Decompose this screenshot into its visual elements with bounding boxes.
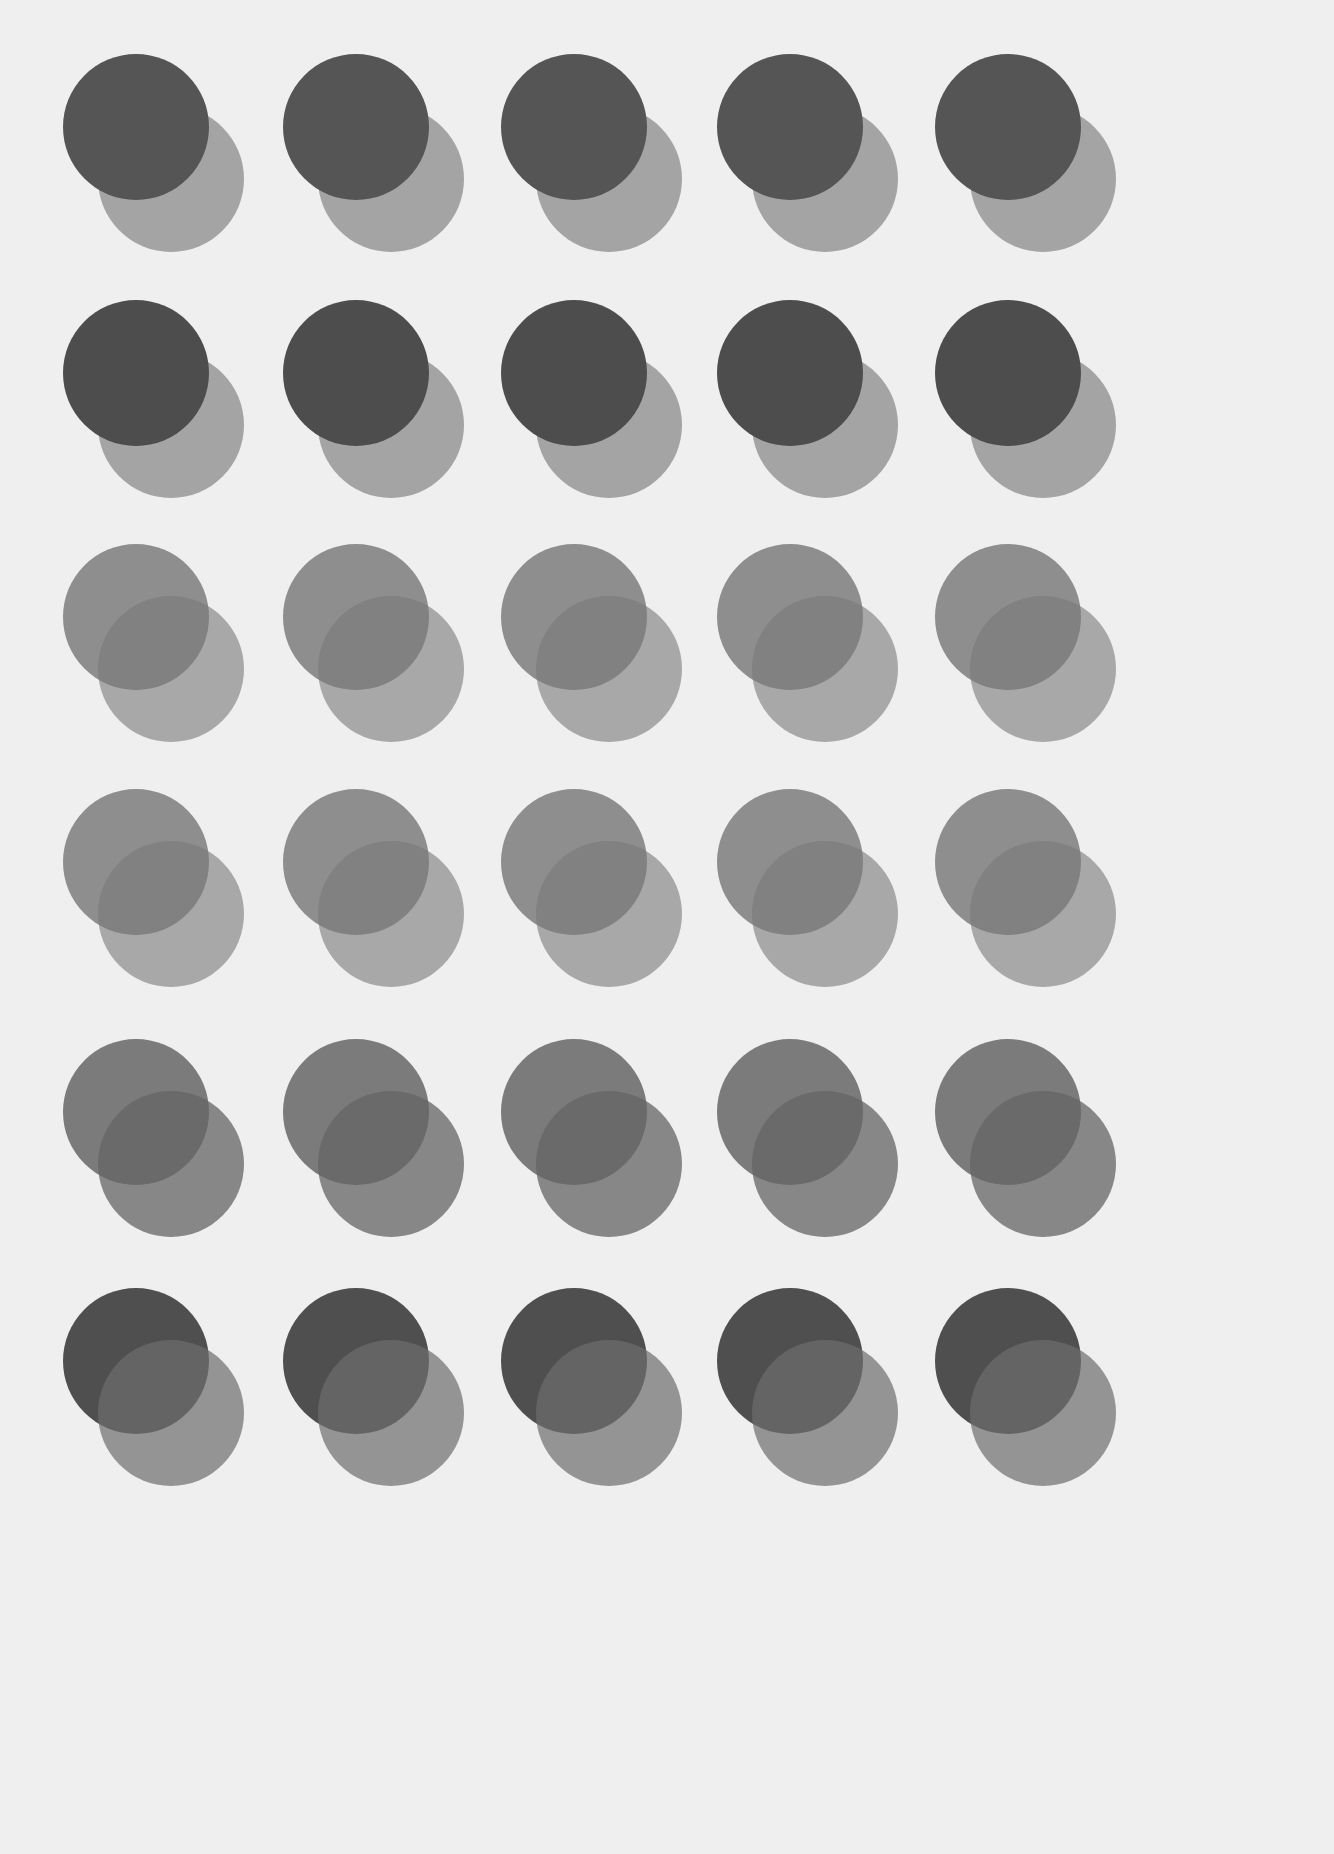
front-circle: [935, 54, 1081, 200]
back-circle: [536, 1340, 682, 1486]
back-circle: [752, 1091, 898, 1237]
front-circle: [935, 300, 1081, 446]
back-circle: [752, 1340, 898, 1486]
back-circle: [98, 841, 244, 987]
front-circle: [63, 54, 209, 200]
back-circle: [318, 1340, 464, 1486]
back-circle: [752, 596, 898, 742]
front-circle: [717, 54, 863, 200]
back-circle: [318, 841, 464, 987]
back-circle: [536, 841, 682, 987]
back-circle: [536, 1091, 682, 1237]
back-circle: [970, 596, 1116, 742]
front-circle: [283, 300, 429, 446]
back-circle: [98, 596, 244, 742]
front-circle: [283, 54, 429, 200]
back-circle: [970, 1340, 1116, 1486]
back-circle: [752, 841, 898, 987]
front-circle: [63, 300, 209, 446]
back-circle: [970, 1091, 1116, 1237]
front-circle: [717, 300, 863, 446]
front-circle: [501, 54, 647, 200]
front-circle: [501, 300, 647, 446]
back-circle: [98, 1340, 244, 1486]
back-circle: [970, 841, 1116, 987]
back-circle: [318, 596, 464, 742]
circle-pattern-canvas: [0, 0, 1334, 1854]
back-circle: [536, 596, 682, 742]
back-circle: [318, 1091, 464, 1237]
back-circle: [98, 1091, 244, 1237]
